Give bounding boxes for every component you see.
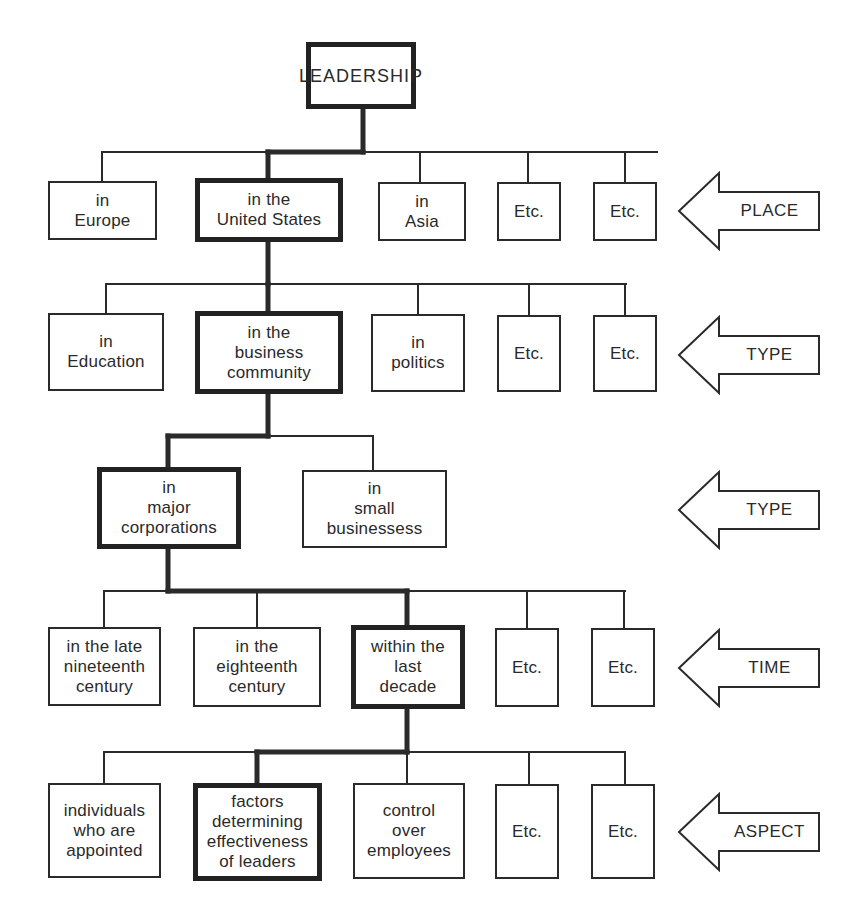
root-node: LEADERSHIP [306,42,416,109]
leadership-topic-tree: LEADERSHIP in Europe in the United State… [0,0,862,924]
dimension-label: ASPECT [717,792,822,872]
dimension-arrow-type: TYPE [677,470,822,550]
node-etc: Etc. [495,784,559,879]
dimension-arrow-type: TYPE [677,315,822,395]
node-in-the-business-community: in the business community [195,311,343,394]
node-in-asia: in Asia [378,182,466,241]
node-etc: Etc. [593,315,657,392]
node-factors-determining-effectiveness: factors determining effectiveness of lea… [193,783,322,881]
node-late-nineteenth-century: in the late nineteenth century [48,627,161,706]
node-in-education: in Education [48,313,164,391]
node-etc: Etc. [593,182,657,241]
node-within-the-last-decade: within the last decade [351,625,465,709]
node-in-small-businesses: in small businessess [302,470,447,548]
node-etc: Etc. [591,628,655,707]
node-in-politics: in politics [371,314,465,392]
dimension-arrow-aspect: ASPECT [677,792,822,872]
node-individuals-who-are-appointed: individuals who are appointed [48,783,161,878]
dimension-label: TYPE [717,315,822,395]
node-etc: Etc. [497,315,561,392]
node-control-over-employees: control over employees [353,783,465,879]
node-etc: Etc. [495,628,559,707]
dimension-arrow-place: PLACE [677,171,822,251]
dimension-label: TIME [717,628,822,708]
node-in-major-corporations: in major corporations [97,467,241,549]
node-eighteenth-century: in the eighteenth century [193,627,321,707]
dimension-label: PLACE [717,171,822,251]
node-in-europe: in Europe [48,181,157,240]
node-etc: Etc. [591,784,655,879]
node-etc: Etc. [497,182,561,241]
dimension-label: TYPE [717,470,822,550]
node-in-the-united-states: in the United States [195,178,343,242]
dimension-arrow-time: TIME [677,628,822,708]
